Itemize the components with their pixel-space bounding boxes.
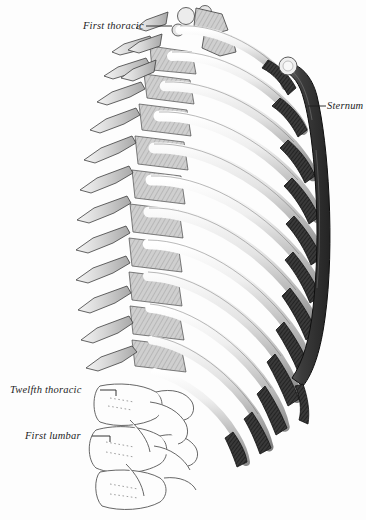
label-sternum: Sternum (327, 100, 363, 111)
label-first-lumbar: First lumbar (25, 430, 81, 441)
label-first-thoracic: First thoracic (83, 20, 144, 31)
anatomical-plate-thorax: First thoracic Sternum Twelfth thoracic … (0, 0, 366, 520)
thorax-illustration (0, 0, 366, 520)
label-twelfth-thoracic: Twelfth thoracic (10, 384, 82, 395)
